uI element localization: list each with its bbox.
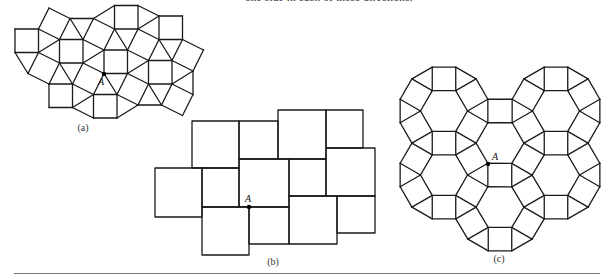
caption-figure-b: (b) bbox=[267, 256, 279, 267]
tiling-figure-b bbox=[155, 110, 375, 255]
horizontal-rule bbox=[14, 273, 600, 274]
point-label-a-figure-b: A bbox=[245, 193, 251, 204]
point-label-a-figure-a: A bbox=[98, 76, 104, 87]
point-label-a-figure-c: A bbox=[492, 151, 498, 162]
tiling-figure-c bbox=[400, 67, 600, 251]
vertex-point-a-in-figure-c bbox=[486, 162, 490, 166]
caption-figure-a: (a) bbox=[77, 122, 88, 133]
vertex-point-a-in-figure-b bbox=[247, 205, 251, 209]
tiling-figure-a bbox=[15, 6, 204, 119]
caption-figure-c: (c) bbox=[493, 253, 504, 264]
figure-canvas bbox=[0, 0, 612, 280]
